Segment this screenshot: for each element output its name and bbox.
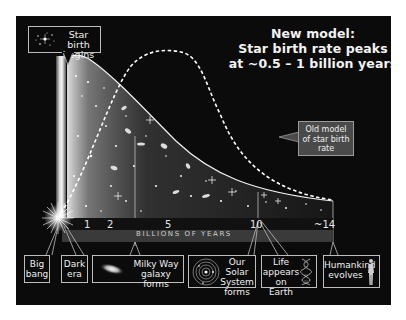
event-humankind: Humankind evolves — [323, 255, 380, 288]
old-model-line-3: rate — [299, 144, 353, 154]
title-line-2: Star birth rate peaks — [228, 41, 391, 56]
humankind-line-2: evolves — [324, 270, 367, 280]
human-figure-icon — [366, 258, 376, 286]
diagram-panel: New model: Star birth rate peaks at ~0.5… — [16, 16, 391, 305]
star-birth-line-1: Star birth — [57, 30, 100, 50]
galaxy-icon — [97, 261, 127, 277]
star-cluster-icon — [32, 30, 58, 50]
old-model-line-2: of star birth — [299, 135, 353, 145]
solar-system-line-1: Our Solar — [219, 257, 255, 277]
event-milky-way: Milky Way galaxy forms — [92, 255, 184, 283]
event-solar-system: Our Solar System forms — [188, 255, 256, 288]
life-line-1: Life — [262, 257, 300, 267]
diagram-title: New model: Star birth rate peaks at ~0.5… — [228, 26, 391, 71]
tick-5: 5 — [165, 219, 171, 230]
dark-era-bar — [56, 56, 66, 218]
life-line-3: on Earth — [262, 277, 300, 297]
solar-system-line-3: forms — [219, 287, 255, 297]
tick-1: 1 — [84, 219, 90, 230]
event-dark-era: Dark era — [61, 255, 88, 283]
milky-way-line-1: Milky Way — [129, 259, 183, 269]
title-line-3: at ~0.5 – 1 billion years — [228, 56, 391, 71]
tick-10: 10 — [250, 219, 263, 230]
milky-way-line-2: galaxy forms — [129, 269, 183, 289]
old-model-line-1: Old model — [299, 125, 353, 135]
tick-2: 2 — [107, 219, 113, 230]
old-model-callout: Old model of star birth rate — [298, 121, 354, 156]
life-line-2: appears — [262, 267, 300, 277]
event-life: Life appears on Earth — [261, 255, 317, 288]
dark-era-line-2: era — [62, 269, 87, 279]
dark-era-line-1: Dark — [62, 259, 87, 269]
star-birth-pointer — [62, 52, 74, 66]
event-big-bang: Big bang — [24, 255, 50, 283]
big-bang-line-2: bang — [25, 269, 49, 279]
axis-label: BILLIONS OF YEARS — [136, 230, 232, 238]
dna-icon — [299, 258, 313, 286]
solar-system-line-2: System — [219, 277, 255, 287]
tick-14: ~14 — [314, 219, 335, 230]
humankind-line-1: Humankind — [324, 260, 367, 270]
star-birth-callout: Star birth begins — [28, 26, 101, 53]
big-bang-line-1: Big — [25, 259, 49, 269]
solar-system-icon — [191, 258, 221, 286]
title-line-1: New model: — [228, 26, 391, 41]
old-model-pointer — [278, 130, 300, 144]
